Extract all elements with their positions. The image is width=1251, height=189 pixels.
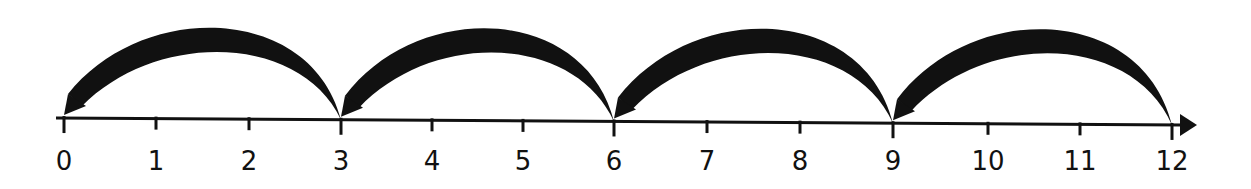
jump-arc xyxy=(897,29,1172,125)
tick-labels: 0123456789101112 xyxy=(56,146,1189,176)
jump-arc xyxy=(618,29,893,124)
tick-label: 4 xyxy=(424,146,441,176)
axis-line xyxy=(56,118,1182,125)
tick-label: 6 xyxy=(606,146,623,176)
jump-arc xyxy=(68,28,341,120)
jump-arcs xyxy=(64,28,1172,125)
tick-label: 3 xyxy=(333,146,350,176)
tick-label: 10 xyxy=(971,146,1004,176)
tick-label: 9 xyxy=(885,146,902,176)
tick-label: 8 xyxy=(792,146,809,176)
jump-arc xyxy=(345,28,614,121)
tick-label: 5 xyxy=(515,146,532,176)
number-line-svg: 0123456789101112 xyxy=(0,0,1251,189)
tick-label: 12 xyxy=(1155,146,1188,176)
tick-label: 0 xyxy=(56,146,73,176)
tick-label: 11 xyxy=(1063,146,1096,176)
tick-label: 2 xyxy=(241,146,258,176)
axis-arrowhead-icon xyxy=(1180,114,1197,136)
tick-label: 1 xyxy=(148,146,165,176)
number-line-diagram: 0123456789101112 xyxy=(0,0,1251,189)
tick-label: 7 xyxy=(699,146,716,176)
